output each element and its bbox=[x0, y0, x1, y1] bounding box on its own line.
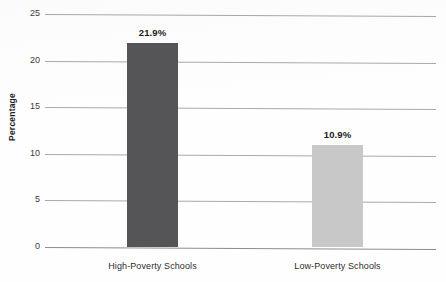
y-tick-label: 0 bbox=[14, 242, 40, 251]
bar-chart: Percentage 0510152025 High-Poverty Schoo… bbox=[0, 0, 446, 282]
gridline bbox=[45, 200, 436, 203]
y-tick-label: 25 bbox=[14, 9, 40, 18]
y-tick-label: 15 bbox=[14, 102, 40, 111]
gridline bbox=[45, 154, 436, 157]
gridline bbox=[45, 247, 436, 250]
gridline bbox=[45, 14, 436, 17]
y-tick-label: 5 bbox=[14, 195, 40, 204]
x-category-label: Low-Poverty Schools bbox=[258, 261, 418, 271]
bar-value-label: 21.9% bbox=[113, 27, 193, 38]
y-tick-label: 20 bbox=[14, 56, 40, 65]
y-axis-tick-labels: 0510152025 bbox=[8, 0, 40, 282]
chart-title bbox=[0, 0, 446, 2]
gridline bbox=[45, 107, 436, 110]
bar[interactable] bbox=[312, 145, 363, 247]
gridline bbox=[45, 61, 436, 64]
x-category-label: High-Poverty Schools bbox=[73, 261, 233, 271]
y-tick-label: 10 bbox=[14, 149, 40, 158]
bar[interactable] bbox=[127, 43, 178, 247]
bar-value-label: 10.9% bbox=[298, 129, 378, 140]
